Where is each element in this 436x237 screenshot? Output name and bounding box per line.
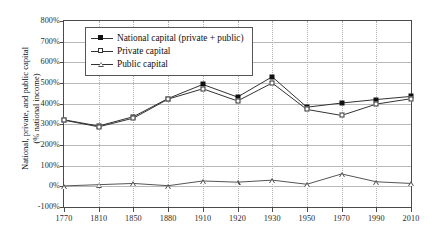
data-point	[200, 86, 205, 91]
x-tick-label: 1920	[229, 214, 246, 223]
open-square-marker-icon	[200, 86, 205, 91]
x-tick-label: 1850	[125, 214, 142, 223]
open-triangle-marker-icon	[130, 181, 136, 186]
data-point	[374, 102, 379, 107]
open-square-marker-icon	[131, 116, 136, 121]
data-point	[339, 113, 344, 118]
data-point	[269, 178, 275, 183]
legend-label-public: Public capital	[117, 59, 168, 70]
x-tick-mark	[238, 208, 239, 212]
data-point	[270, 81, 275, 86]
open-square-marker-icon	[62, 118, 67, 123]
data-point	[130, 181, 136, 186]
x-tick-mark	[376, 208, 377, 212]
y-tick-label: 0%	[22, 181, 60, 190]
x-tick-mark	[203, 208, 204, 212]
open-triangle-marker-icon	[200, 179, 206, 184]
open-square-marker-icon	[166, 97, 171, 102]
open-triangle-marker-icon	[339, 172, 345, 177]
open-square-marker-icon	[96, 124, 101, 129]
y-tick-label: 700%	[22, 36, 60, 45]
open-square-marker-icon	[304, 107, 309, 112]
data-point	[96, 183, 102, 188]
x-tick-label: 1810	[90, 214, 107, 223]
data-point	[339, 101, 344, 106]
y-tick-label: 400%	[22, 98, 60, 107]
open-triangle-marker-icon	[269, 178, 275, 183]
x-tick-mark	[99, 208, 100, 212]
data-point	[339, 172, 345, 177]
x-tick-label: 1880	[160, 214, 177, 223]
legend-item-public: Public capital	[91, 58, 244, 71]
legend-label-private: Private capital	[117, 46, 170, 57]
chart-legend: National capital (private + public) Priv…	[85, 27, 253, 76]
x-axis-tick-labels: 1770181018501880191019201930195019701990…	[63, 208, 413, 237]
x-tick-mark	[168, 208, 169, 212]
data-point	[200, 179, 206, 184]
open-square-marker-icon	[91, 46, 113, 57]
y-tick-label: 800%	[22, 16, 60, 25]
x-tick-label: 1950	[299, 214, 316, 223]
x-tick-label: 1970	[333, 214, 350, 223]
x-tick-label: 1770	[56, 214, 73, 223]
data-point	[62, 118, 67, 123]
x-tick-mark	[307, 208, 308, 212]
filled-square-marker-icon	[270, 74, 275, 79]
legend-item-national: National capital (private + public)	[91, 32, 244, 45]
open-triangle-marker-icon	[304, 182, 310, 187]
x-tick-label: 1990	[368, 214, 385, 223]
data-point	[408, 181, 414, 186]
y-tick-label: 300%	[22, 119, 60, 128]
series-line	[64, 83, 411, 127]
x-tick-mark	[64, 208, 65, 212]
y-axis-tick-labels: 800%700%600%500%400%300%200%100%0%-100%	[16, 0, 60, 237]
x-tick-mark	[272, 208, 273, 212]
y-tick-label: 200%	[22, 140, 60, 149]
legend-label-national: National capital (private + public)	[117, 33, 244, 44]
data-point	[96, 124, 101, 129]
open-triangle-marker-icon	[373, 180, 379, 185]
capital-ratio-line-chart: National, private, and public capital (%…	[0, 0, 436, 237]
open-triangle-marker-icon	[96, 183, 102, 188]
filled-square-marker-icon	[339, 101, 344, 106]
y-tick-label: 600%	[22, 57, 60, 66]
data-point	[61, 184, 67, 189]
data-point	[235, 98, 240, 103]
data-point	[304, 182, 310, 187]
x-tick-label: 1930	[264, 214, 281, 223]
open-triangle-marker-icon	[61, 184, 67, 189]
y-tick-label: 500%	[22, 78, 60, 87]
open-triangle-marker-icon	[408, 181, 414, 186]
open-square-marker-icon	[270, 81, 275, 86]
x-tick-label: 2010	[403, 214, 420, 223]
data-point	[373, 180, 379, 185]
x-tick-mark	[342, 208, 343, 212]
open-triangle-marker-icon	[235, 180, 241, 185]
legend-item-private: Private capital	[91, 45, 244, 58]
data-point	[165, 184, 171, 189]
data-point	[131, 116, 136, 121]
open-square-marker-icon	[235, 98, 240, 103]
x-tick-mark	[133, 208, 134, 212]
y-tick-label: 100%	[22, 160, 60, 169]
data-point	[409, 96, 414, 101]
filled-square-marker-icon	[91, 33, 113, 44]
data-point	[235, 180, 241, 185]
y-tick-label: -100%	[22, 202, 60, 211]
data-point	[166, 97, 171, 102]
open-triangle-marker-icon	[165, 184, 171, 189]
x-tick-mark	[411, 208, 412, 212]
data-point	[304, 107, 309, 112]
open-square-marker-icon	[374, 102, 379, 107]
data-point	[270, 74, 275, 79]
x-tick-label: 1910	[194, 214, 211, 223]
open-square-marker-icon	[409, 96, 414, 101]
open-square-marker-icon	[339, 113, 344, 118]
open-triangle-marker-icon	[91, 59, 113, 70]
